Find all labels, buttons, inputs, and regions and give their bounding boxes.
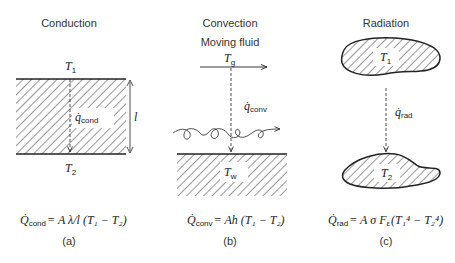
radiation-equation: Q̇rad= A σ Fε(T₁⁴ − T₂⁴): [328, 213, 443, 228]
panel-radiation: Radiation T1 q̇rad T2 Q̇rad= A σ Fε(T₁⁴ …: [328, 17, 443, 247]
conduction-equation: Q̇cond= A λ/l (T₁ − T₂): [20, 213, 127, 228]
moving-fluid-label: Moving fluid: [201, 36, 260, 48]
convection-title: Convection: [202, 17, 257, 29]
convection-equation: Q̇conv= Ah (T₁ − T₂): [187, 213, 285, 228]
turbulent-eddies: [173, 129, 280, 140]
heat-transfer-diagram: Conduction T1 q̇cond l T2 Q̇cond= A λ/l …: [0, 0, 455, 263]
conduction-t2-label: T2: [65, 161, 77, 177]
conduction-caption: (a): [62, 235, 75, 247]
convection-caption: (b): [223, 235, 236, 247]
radiation-caption: (c): [380, 235, 393, 247]
conduction-title: Conduction: [41, 17, 97, 29]
panel-convection: Convection Moving fluid Tg q̇conv Tw Q̇c…: [173, 17, 287, 247]
radiation-title: Radiation: [363, 17, 409, 29]
gas-temperature-label: Tg: [224, 51, 235, 67]
thickness-dimension: [127, 80, 133, 153]
conduction-t1-label: T1: [65, 59, 77, 75]
convection-flux-label: q̇conv: [244, 99, 267, 114]
conduction-slab: [16, 79, 126, 154]
thickness-label: l: [134, 110, 138, 124]
radiation-flux-label: q̇rad: [395, 105, 413, 120]
panel-conduction: Conduction T1 q̇cond l T2 Q̇cond= A λ/l …: [16, 17, 138, 247]
